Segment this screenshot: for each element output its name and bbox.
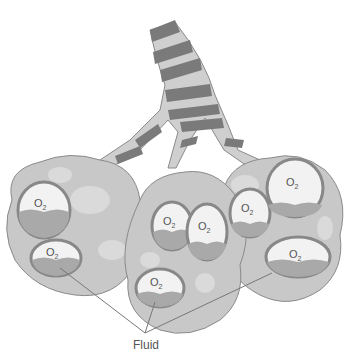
fluid-label: Fluid: [133, 338, 159, 352]
alveolus-sac: O2: [266, 237, 330, 277]
alveolus-sac: O2: [18, 182, 70, 238]
alveolus-sac: O2: [187, 204, 227, 260]
alveolus-sac: O2: [230, 189, 270, 237]
alveoli-diagram: O2 O2 O2 O2 O2 O2 O2 O2 Fluid: [0, 0, 352, 364]
alveolus-sac: O2: [267, 159, 323, 217]
diagram-canvas: O2 O2 O2 O2 O2 O2 O2 O2: [0, 0, 352, 364]
bronchus: [100, 20, 260, 168]
alveolus-sac: O2: [136, 269, 184, 307]
middle-lobe: [125, 171, 247, 333]
alveolus-sac: O2: [31, 240, 81, 276]
